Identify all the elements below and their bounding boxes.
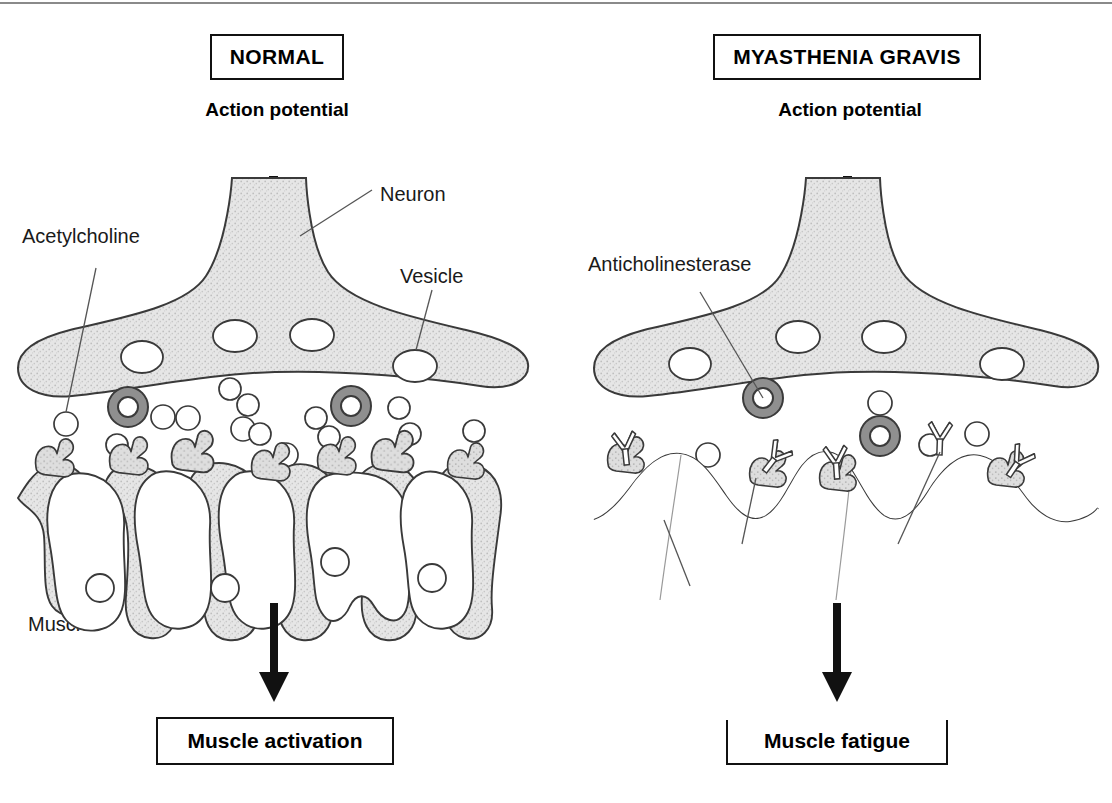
myasthenia-gravis-diagram: NORMAL Action potential Neuron Acetylcho… bbox=[0, 0, 1112, 803]
postsynaptic-membrane-label: Postsynaptic membrane simplified bbox=[586, 594, 772, 669]
action-potential-label-normal: Action potential bbox=[198, 98, 356, 121]
panel-title-normal: NORMAL bbox=[210, 34, 344, 80]
outcome-arrow-mg bbox=[822, 603, 852, 702]
figure-top-rule bbox=[0, 2, 1112, 4]
action-potential-arrow-normal bbox=[258, 176, 289, 289]
vesicles-normal bbox=[121, 319, 437, 382]
acetylcholine-label: Acetylcholine bbox=[22, 224, 140, 249]
anticholinesterase-molecules-mg bbox=[743, 378, 900, 456]
ach-molecules-normal bbox=[54, 378, 485, 518]
result-box-muscle-activation: Muscle activation bbox=[156, 717, 394, 765]
normal-panel-art bbox=[18, 176, 528, 702]
result-text-muscle-fatigue: Muscle fatigue bbox=[764, 729, 910, 753]
antibodies-anti-achr bbox=[611, 422, 1037, 483]
ach-molecules-mg bbox=[696, 391, 989, 483]
neuron-label: Neuron bbox=[380, 182, 446, 207]
panel-title-mg-text: MYASTHENIA GRAVIS bbox=[733, 45, 961, 69]
outcome-arrow-normal bbox=[259, 603, 289, 702]
panel-title-mg: MYASTHENIA GRAVIS bbox=[713, 34, 981, 80]
anticholinesterase-molecules-normal bbox=[108, 386, 371, 427]
postsynaptic-membrane-mg bbox=[594, 452, 1098, 522]
ach-label: ACh bbox=[728, 551, 767, 576]
action-potential-label-mg: Action potential bbox=[771, 98, 929, 121]
diagram-artwork bbox=[0, 0, 1112, 803]
result-box-muscle-fatigue: Muscle fatigue bbox=[726, 717, 948, 765]
panel-title-normal-text: NORMAL bbox=[230, 45, 325, 69]
leader-lines-mg bbox=[664, 292, 940, 586]
receptors-mg bbox=[608, 437, 1025, 491]
anti-achr-label: Anti-AChR bbox=[866, 551, 960, 576]
ach-in-folds-normal bbox=[86, 548, 446, 602]
vesicles-mg bbox=[669, 321, 1024, 380]
muscle-label: Muscle bbox=[28, 612, 91, 637]
receptors-normal bbox=[36, 431, 485, 481]
anticholinesterase-label: Anticholinesterase bbox=[588, 252, 751, 277]
neuron-terminal-mg bbox=[594, 178, 1098, 396]
action-potential-arrow-mg bbox=[832, 176, 863, 289]
vesicle-label: Vesicle bbox=[400, 264, 463, 289]
result-text-muscle-activation: Muscle activation bbox=[187, 729, 362, 753]
membrane-creases bbox=[660, 455, 851, 600]
